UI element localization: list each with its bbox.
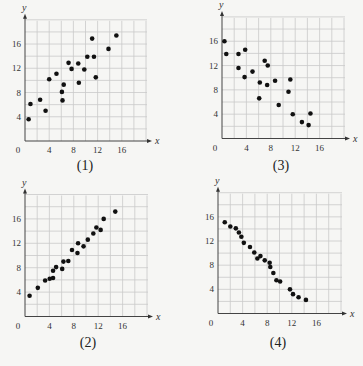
data-point	[290, 112, 295, 117]
x-tick-label: 4	[47, 321, 52, 331]
x-tick-label: 16	[312, 318, 322, 328]
data-point	[75, 251, 80, 256]
data-point	[51, 268, 56, 273]
data-point	[296, 295, 301, 300]
x-axis-label: x	[349, 308, 355, 319]
data-point	[265, 63, 270, 68]
data-point	[234, 226, 239, 231]
data-point	[76, 61, 81, 66]
y-tick-label: 12	[205, 236, 214, 246]
x-tick-label: 16	[315, 143, 325, 153]
scatter-panel-1: xy0481216481216(1)	[12, 2, 160, 174]
y-axis-arrow-icon	[220, 11, 224, 16]
panel-caption: (3)	[273, 158, 290, 174]
y-tick-label: 8	[214, 85, 219, 95]
data-point	[28, 102, 33, 107]
data-point	[51, 276, 56, 281]
y-tick-label: 16	[12, 214, 22, 224]
data-point	[66, 259, 71, 264]
data-point	[77, 81, 82, 86]
data-point	[242, 241, 247, 246]
y-axis-label: y	[214, 175, 220, 186]
data-point	[248, 245, 253, 250]
x-tick-label: 8	[269, 143, 274, 153]
y-tick-label: 16	[209, 36, 219, 46]
data-point	[286, 89, 291, 94]
data-point	[278, 279, 283, 284]
y-tick-label: 16	[205, 212, 215, 222]
data-point	[61, 259, 66, 264]
y-tick-label: 8	[210, 260, 215, 270]
data-point	[258, 80, 263, 85]
x-tick-label: 8	[72, 321, 77, 331]
data-point	[262, 58, 267, 63]
data-point	[60, 98, 65, 103]
x-tick-label: 16	[117, 145, 127, 155]
y-tick-label: 16	[12, 39, 22, 49]
x-axis-arrow-icon	[148, 315, 153, 319]
data-point	[242, 75, 247, 80]
data-point	[224, 52, 229, 57]
x-axis-label: x	[352, 133, 358, 144]
data-point	[54, 71, 59, 76]
data-point	[69, 67, 74, 72]
data-point	[85, 54, 90, 59]
data-point	[61, 82, 66, 87]
x-tick-label: 0	[16, 145, 21, 155]
x-tick-label: 4	[240, 318, 245, 328]
y-tick-label: 12	[12, 238, 21, 248]
data-point	[106, 47, 111, 52]
data-point	[60, 267, 65, 272]
data-point	[265, 83, 270, 88]
x-tick-label: 4	[244, 143, 249, 153]
data-point	[222, 39, 227, 44]
data-point	[304, 298, 309, 303]
y-axis-label: y	[218, 0, 224, 10]
data-point	[273, 78, 278, 83]
grid	[25, 195, 148, 317]
data-point	[250, 69, 255, 74]
data-point	[91, 231, 96, 236]
x-tick-label: 0	[213, 143, 218, 153]
data-point	[300, 120, 305, 125]
y-tick-label: 4	[17, 287, 22, 297]
x-tick-label: 16	[118, 321, 128, 331]
data-point	[86, 237, 91, 242]
grid	[222, 17, 345, 139]
data-point	[252, 250, 257, 255]
x-tick-label: 4	[47, 145, 52, 155]
data-point	[76, 241, 81, 246]
data-point	[291, 292, 296, 297]
data-point	[239, 234, 244, 239]
data-point	[26, 117, 31, 122]
data-point	[94, 225, 99, 230]
scatter-panel-3: xy0481216481216(2)	[12, 177, 161, 352]
data-point	[267, 260, 272, 265]
data-point	[81, 244, 86, 249]
y-axis-label: y	[21, 177, 27, 188]
data-point	[93, 75, 98, 80]
x-axis-arrow-icon	[345, 137, 350, 141]
y-tick-label: 4	[17, 112, 22, 122]
y-axis-arrow-icon	[23, 14, 27, 19]
data-point	[47, 77, 52, 82]
x-tick-label: 12	[291, 143, 300, 153]
data-point	[114, 33, 119, 38]
data-point	[222, 220, 227, 225]
x-axis-arrow-icon	[342, 312, 347, 316]
data-point	[43, 108, 48, 113]
data-point	[43, 278, 48, 283]
data-point	[66, 61, 71, 66]
data-point	[262, 258, 267, 263]
data-point	[243, 47, 248, 52]
x-tick-label: 8	[265, 318, 270, 328]
y-tick-label: 8	[17, 88, 22, 98]
y-tick-label: 4	[210, 284, 215, 294]
data-point	[268, 265, 273, 270]
data-point	[92, 54, 97, 59]
x-tick-label: 12	[93, 145, 102, 155]
x-tick-label: 12	[287, 318, 296, 328]
y-axis-arrow-icon	[23, 189, 27, 194]
data-point	[38, 97, 43, 102]
data-point	[236, 52, 241, 57]
